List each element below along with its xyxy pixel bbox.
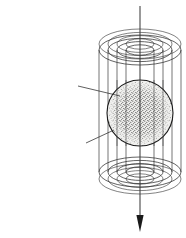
axis-arrowhead-down-icon [136,215,143,232]
fermi-sphere [105,78,177,150]
figure-canvas: E = E F E = ħω c (n + 1 2 ) [0,0,186,238]
landau-tubes-fermi-sphere-diagram: E = E F E = ħω c (n + 1 2 ) [0,0,186,238]
leader-landau [86,130,114,143]
diagram-body: E = E F E = ħω c (n + 1 2 ) [0,6,181,232]
fermi-sphere-edge-shading [105,78,177,150]
